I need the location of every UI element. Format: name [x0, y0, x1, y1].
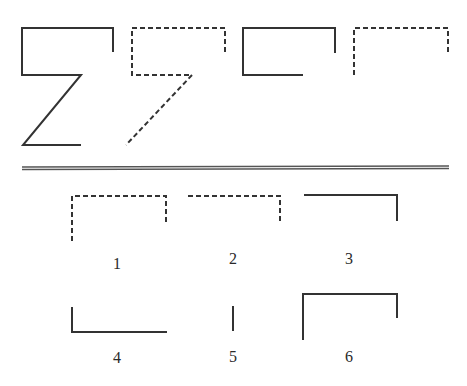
options-grid: 1 2 3 4 5 6: [72, 195, 397, 366]
puzzle-diagram: 1 2 3 4 5 6: [0, 0, 467, 386]
option-3-label: 3: [345, 250, 353, 267]
sequence-figure-4: [354, 28, 448, 75]
option-6[interactable]: 6: [303, 294, 397, 365]
option-4-figure: [72, 307, 167, 332]
sequence-figure-2: [126, 28, 225, 145]
option-5[interactable]: 5: [229, 306, 237, 365]
sequence-figure-3: [243, 28, 335, 75]
option-1-figure: [72, 196, 166, 243]
sequence-figure-1: [22, 28, 113, 145]
option-1[interactable]: 1: [72, 196, 166, 272]
option-6-label: 6: [345, 348, 353, 365]
option-3[interactable]: 3: [304, 195, 397, 267]
sequence-row: [22, 28, 448, 145]
option-4[interactable]: 4: [72, 307, 167, 366]
option-3-figure: [304, 195, 397, 221]
divider: [22, 166, 449, 170]
option-5-label: 5: [229, 348, 237, 365]
option-1-label: 1: [113, 255, 121, 272]
option-2[interactable]: 2: [188, 196, 280, 267]
option-2-figure: [188, 196, 280, 223]
option-6-figure: [303, 294, 397, 340]
option-2-label: 2: [229, 250, 237, 267]
option-4-label: 4: [113, 349, 121, 366]
